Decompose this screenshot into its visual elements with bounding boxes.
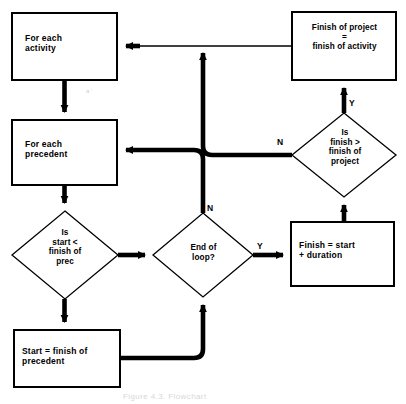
node-finish-of-project-eq-finish-of-activity xyxy=(292,12,396,80)
branch-label-n-is-finish-gt: N xyxy=(277,137,283,147)
node-end-of-loop xyxy=(153,213,253,297)
figure-caption: Figure 4.3. Flowchart xyxy=(123,392,207,401)
branch-label-n-end-of-loop: N xyxy=(207,203,213,213)
node-start-eq-finish-of-precedent xyxy=(14,330,120,387)
node-for-each-activity xyxy=(12,13,117,80)
node-is-finish-gt-finish-of-project xyxy=(292,113,396,197)
flowchart-figure: For each activity For each precedent Is … xyxy=(0,0,406,404)
node-finish-eq-start-plus-duration xyxy=(291,222,394,286)
node-for-each-precedent xyxy=(12,120,117,185)
branch-label-y-end-of-loop: Y xyxy=(257,241,263,251)
node-is-start-lt-finish-of-prec xyxy=(12,211,118,299)
flowchart-canvas xyxy=(0,0,406,404)
edge-start-assign-to-end-of-loop xyxy=(120,305,203,358)
scan-speck: a ' xyxy=(86,88,92,94)
branch-label-y-is-finish-gt: Y xyxy=(349,98,355,108)
edge-end-of-loop-n-to-precedent xyxy=(126,150,203,213)
